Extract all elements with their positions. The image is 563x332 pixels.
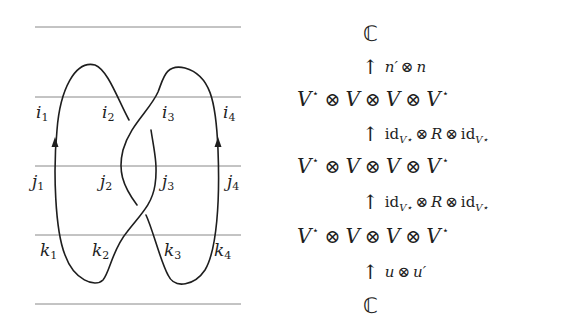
map-id-R-id-upper: ↑idV⋆⊗R⊗idV⋆ xyxy=(362,124,489,145)
map-u-tensor-u-prime: ↑u⊗u′ xyxy=(362,262,426,282)
up-arrow-icon: ↑ xyxy=(362,262,379,282)
up-arrow-icon: ↑ xyxy=(362,192,379,212)
tensor-row-3: V⋆⊗V⊗V⊗V⋆ xyxy=(297,225,449,246)
up-arrow-icon: ↑ xyxy=(362,124,379,144)
map-n-prime-tensor-n: ↑n′⊗n xyxy=(362,57,426,77)
up-arrow-icon: ↑ xyxy=(362,57,379,77)
map-id-R-id-lower: ↑idV⋆⊗R⊗idV⋆ xyxy=(362,192,489,213)
morphism-composition: ℂ ↑n′⊗n V⋆⊗V⊗V⊗V⋆ ↑idV⋆⊗R⊗idV⋆ V⋆⊗V⊗V⊗V⋆… xyxy=(0,0,563,332)
tensor-row-1: V⋆⊗V⊗V⊗V⋆ xyxy=(297,88,449,109)
complex-numbers-top: ℂ xyxy=(363,24,378,45)
complex-numbers-bottom: ℂ xyxy=(363,296,378,317)
tensor-row-2: V⋆⊗V⊗V⊗V⋆ xyxy=(297,155,449,176)
